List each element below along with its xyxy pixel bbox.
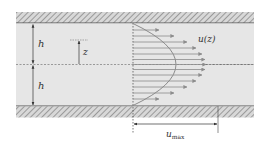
umax-label-sub: max: [172, 133, 185, 140]
poiseuille-flow-diagram: h h z u(z) umax: [0, 0, 264, 144]
top-wall: [16, 12, 254, 23]
umax-label: umax: [166, 129, 185, 140]
h-lower-label: h: [38, 80, 44, 91]
velocity-profile-label: u(z): [198, 34, 216, 44]
h-upper-label: h: [38, 38, 44, 49]
z-label: z: [82, 47, 88, 57]
